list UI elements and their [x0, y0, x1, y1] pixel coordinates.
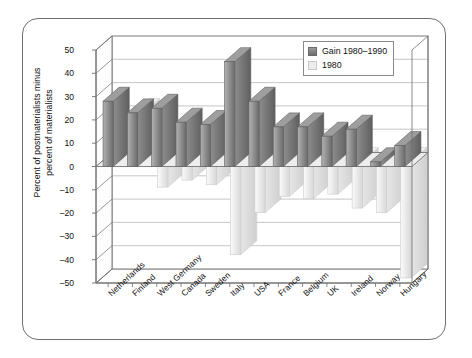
- y-axis-tick-label: 30: [40, 92, 74, 102]
- y-axis-tick-label: –10: [40, 185, 74, 195]
- y-axis-tick-label: 0: [40, 162, 74, 172]
- legend-swatch-icon-gain: [308, 47, 317, 56]
- y-axis-tick-label: 50: [40, 45, 74, 55]
- y-axis-tick-label: –30: [40, 231, 74, 241]
- legend-item-1980: 1980: [308, 59, 387, 73]
- y-axis-tick-label: 10: [40, 138, 74, 148]
- chart-legend: Gain 1980–1990 1980: [303, 41, 394, 76]
- y-axis-tick-label: –20: [40, 208, 74, 218]
- y-axis-tick-label: 20: [40, 115, 74, 125]
- y-axis-ticks: 50403020100–10–20–30–40–50: [40, 0, 74, 358]
- chart-figure: Percent of postmaterialists minus percen…: [0, 0, 472, 358]
- y-axis-tick-label: –50: [40, 278, 74, 288]
- legend-swatch-icon-1980: [308, 61, 317, 70]
- legend-label-gain: Gain 1980–1990: [322, 45, 387, 59]
- y-axis-tick-label: 40: [40, 68, 74, 78]
- y-axis-tick-label: –40: [40, 255, 74, 265]
- legend-label-1980: 1980: [322, 59, 342, 73]
- plot-area: Percent of postmaterialists minus percen…: [0, 0, 472, 358]
- legend-item-gain: Gain 1980–1990: [308, 45, 387, 59]
